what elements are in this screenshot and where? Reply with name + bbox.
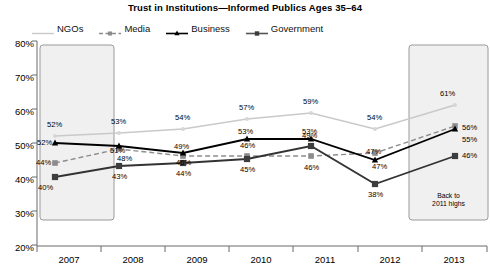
note-line1: Back to bbox=[437, 192, 460, 199]
datalabel-government-2010: 45% bbox=[240, 165, 255, 174]
datalabel-business-2007: 52% bbox=[37, 138, 52, 147]
datalabel-government-2011: 49% bbox=[302, 131, 317, 140]
datalabel-business-2009: 49% bbox=[174, 142, 189, 151]
datalabel-media-2012: 47% bbox=[372, 162, 387, 171]
datalabel-media-2011: 46% bbox=[304, 163, 319, 172]
xtick-2008: 2008 bbox=[113, 254, 153, 265]
xtick-2010: 2010 bbox=[241, 254, 281, 265]
xtick-2013: 2013 bbox=[434, 254, 474, 265]
note-back-to-2011-highs: Back to 2011 highs bbox=[411, 192, 486, 209]
datalabel-media-2010: 46% bbox=[240, 141, 255, 150]
datalabel-ngos-2013: 61% bbox=[440, 89, 455, 98]
datalabel-government-2008: 43% bbox=[112, 172, 127, 181]
datalabel-business-2012: 47% bbox=[366, 147, 381, 156]
xtick-2011: 2011 bbox=[305, 254, 345, 265]
datalabel-business-2010: 53% bbox=[238, 127, 253, 136]
xtick-2009: 2009 bbox=[177, 254, 217, 265]
datalabel-government-2013: 46% bbox=[462, 151, 477, 160]
datalabel-ngos-2010: 57% bbox=[239, 103, 254, 112]
chart-canvas bbox=[0, 0, 490, 275]
datalabel-ngos-2009: 54% bbox=[175, 113, 190, 122]
chart-root: Trust in Institutions—Informed Publics A… bbox=[0, 0, 490, 275]
datalabel-media-2009: 46% bbox=[176, 158, 191, 167]
xtick-2007: 2007 bbox=[49, 254, 89, 265]
datalabel-government-2012: 38% bbox=[368, 190, 383, 199]
datalabel-government-2007: 40% bbox=[38, 183, 53, 192]
datalabel-ngos-2011: 59% bbox=[303, 97, 318, 106]
datalabel-business-2013: 56% bbox=[462, 123, 477, 132]
note-line2: 2011 highs bbox=[432, 200, 465, 207]
datalabel-ngos-2012: 54% bbox=[367, 113, 382, 122]
datalabel-media-2007: 44% bbox=[36, 158, 51, 167]
datalabel-ngos-2007: 52% bbox=[47, 120, 62, 129]
datalabel-media-2013: 55% bbox=[462, 135, 477, 144]
datalabel-ngos-2008: 53% bbox=[111, 117, 126, 126]
datalabel-government-2009: 44% bbox=[176, 169, 191, 178]
xtick-2012: 2012 bbox=[370, 254, 410, 265]
datalabel-media-2008: 48% bbox=[117, 154, 132, 163]
